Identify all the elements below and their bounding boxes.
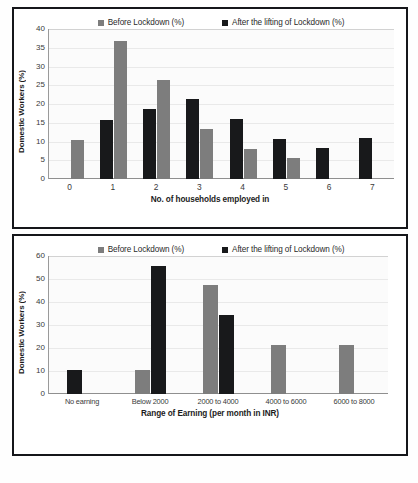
bar-before (203, 285, 218, 394)
bar-before (244, 149, 257, 179)
x-axis-label-bottom: Range of Earning (per month in INR) (14, 409, 406, 418)
x-tick: 5 (264, 183, 307, 192)
bar-group (320, 256, 388, 394)
bar-group (222, 29, 265, 179)
x-axis-top: 0 1 2 3 4 5 6 7 (48, 179, 394, 192)
legend-bottom: Before Lockdown (%) After the lifting of… (14, 236, 406, 256)
legend-label-before-lockdown: Before Lockdown (%) (108, 245, 184, 254)
bar-after (151, 266, 166, 394)
bar-group (351, 29, 394, 179)
chart-panel-households: Before Lockdown (%) After the lifting of… (12, 7, 408, 229)
legend-label-after-lockdown: After the lifting of Lockdown (%) (232, 18, 344, 27)
legend-label-before-lockdown: Before Lockdown (%) (108, 18, 184, 27)
legend-swatch-after-lockdown (222, 247, 228, 253)
y-axis-top: 40 35 30 25 20 15 10 5 0 (28, 29, 48, 179)
plot-area-top (48, 29, 394, 179)
y-tick-0: 0 (41, 390, 45, 398)
x-tick: 4 (221, 183, 264, 192)
bar-group (49, 29, 92, 179)
bar-after (143, 109, 156, 179)
bar-group (185, 256, 253, 394)
bar-group (265, 29, 308, 179)
y-tick-10: 10 (36, 367, 45, 375)
legend-swatch-before-lockdown (98, 247, 104, 253)
y-tick-30: 30 (36, 63, 45, 71)
y-tick-5: 5 (41, 156, 45, 164)
bar-group (92, 29, 135, 179)
legend-item-before-lockdown: Before Lockdown (%) (98, 245, 184, 254)
bar-after (100, 120, 113, 179)
y-tick-25: 25 (36, 81, 45, 89)
y-tick-10: 10 (36, 138, 45, 146)
bar-before (271, 345, 286, 395)
x-tick: 0 (48, 183, 91, 192)
x-axis-bottom: No earning Below 2000 2000 to 4000 4000 … (48, 394, 388, 406)
y-tick-60: 60 (36, 252, 45, 260)
x-tick: 2000 to 4000 (184, 398, 252, 406)
x-tick: 1 (91, 183, 134, 192)
bar-after (230, 119, 243, 179)
y-axis-label-top: Domestic Workers (%) (14, 29, 28, 179)
plot-wrap-top: Domestic Workers (%) 40 35 30 25 20 15 1… (14, 29, 406, 179)
bar-before (200, 129, 213, 179)
legend-item-after-lockdown: After the lifting of Lockdown (%) (222, 18, 344, 27)
y-tick-15: 15 (36, 119, 45, 127)
y-tick-20: 20 (36, 344, 45, 352)
y-tick-40: 40 (36, 298, 45, 306)
x-tick: 4000 to 6000 (252, 398, 320, 406)
bar-after (359, 138, 372, 179)
bar-before (287, 158, 300, 179)
bar-before (114, 41, 127, 179)
bar-before (157, 80, 170, 179)
bar-after (316, 148, 329, 179)
legend-label-after-lockdown: After the lifting of Lockdown (%) (232, 245, 344, 254)
y-tick-30: 30 (36, 321, 45, 329)
bar-group (178, 29, 221, 179)
y-tick-50: 50 (36, 275, 45, 283)
legend-item-before-lockdown: Before Lockdown (%) (98, 18, 184, 27)
bar-after (219, 315, 234, 394)
bar-before (135, 370, 150, 394)
bar-before (339, 345, 354, 395)
bar-group (135, 29, 178, 179)
chart-panel-earnings: Before Lockdown (%) After the lifting of… (12, 234, 408, 456)
legend-swatch-before-lockdown (98, 20, 104, 26)
bar-after (273, 139, 286, 180)
bar-group (308, 29, 351, 179)
legend-item-after-lockdown: After the lifting of Lockdown (%) (222, 245, 344, 254)
x-tick: 7 (351, 183, 394, 192)
x-tick: 6 (308, 183, 351, 192)
bar-after (186, 99, 199, 179)
y-tick-40: 40 (36, 25, 45, 33)
legend-swatch-after-lockdown (222, 20, 228, 26)
y-axis-label-bottom: Domestic Workers (%) (14, 256, 28, 394)
figure-container: Before Lockdown (%) After the lifting of… (0, 0, 418, 483)
plot-area-bottom (48, 256, 388, 394)
x-tick: 2 (135, 183, 178, 192)
x-tick: 6000 to 8000 (320, 398, 388, 406)
x-axis-label-top: No. of households employed in (14, 195, 406, 204)
plot-wrap-bottom: Domestic Workers (%) 60 50 40 30 20 10 0 (14, 256, 406, 394)
y-axis-bottom: 60 50 40 30 20 10 0 (28, 256, 48, 394)
x-tick: No earning (48, 398, 116, 406)
x-tick: 3 (178, 183, 221, 192)
bar-group (252, 256, 320, 394)
y-tick-0: 0 (41, 175, 45, 183)
bar-before (71, 140, 84, 179)
x-tick: Below 2000 (116, 398, 184, 406)
y-tick-20: 20 (36, 100, 45, 108)
bar-group-container-top (49, 29, 394, 179)
bar-group-container-bottom (49, 256, 388, 394)
y-tick-35: 35 (36, 44, 45, 52)
bar-group (49, 256, 117, 394)
bar-group (117, 256, 185, 394)
bar-after (67, 370, 82, 394)
legend-top: Before Lockdown (%) After the lifting of… (14, 9, 406, 29)
